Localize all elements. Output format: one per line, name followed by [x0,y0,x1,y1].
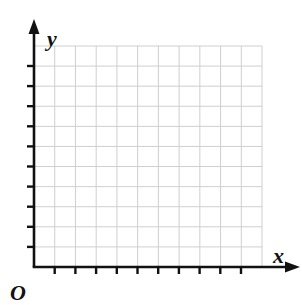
x-axis-label: x [272,243,284,268]
figure-root: y x O [0,0,302,305]
coordinate-plane: y x O [0,0,302,305]
origin-label: O [10,280,26,305]
